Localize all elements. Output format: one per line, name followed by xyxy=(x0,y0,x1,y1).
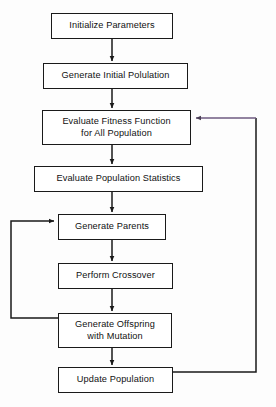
connector-offspring-loop-to-parents xyxy=(11,221,58,318)
node-perform-crossover[interactable]: Perform Crossover xyxy=(58,263,173,289)
flowchart-canvas: Initialize Parameters Generate Initial P… xyxy=(0,0,276,407)
node-evaluate-population-statistics[interactable]: Evaluate Population Statistics xyxy=(34,166,203,192)
connector-update-loop-vertical xyxy=(173,118,256,372)
node-initialize-parameters[interactable]: Initialize Parameters xyxy=(51,13,173,39)
node-label: Evaluate Population Statistics xyxy=(56,173,180,185)
node-generate-parents[interactable]: Generate Parents xyxy=(58,214,166,240)
node-evaluate-fitness-function[interactable]: Evaluate Fitness Function for All Popula… xyxy=(42,110,191,145)
node-generate-initial-population[interactable]: Generate Initial Polulation xyxy=(43,63,188,89)
node-label: Evaluate Fitness Function for All Popula… xyxy=(62,116,170,139)
node-label: Generate Initial Polulation xyxy=(62,70,170,82)
node-label: Initialize Parameters xyxy=(69,20,154,32)
node-update-population[interactable]: Update Population xyxy=(58,367,173,393)
node-label: Generate Parents xyxy=(75,221,149,233)
node-label: Generate Offspring with Mutation xyxy=(75,319,155,342)
node-label: Perform Crossover xyxy=(76,270,155,282)
node-generate-offspring-with-mutation[interactable]: Generate Offspring with Mutation xyxy=(58,313,172,348)
node-label: Update Population xyxy=(77,374,154,386)
